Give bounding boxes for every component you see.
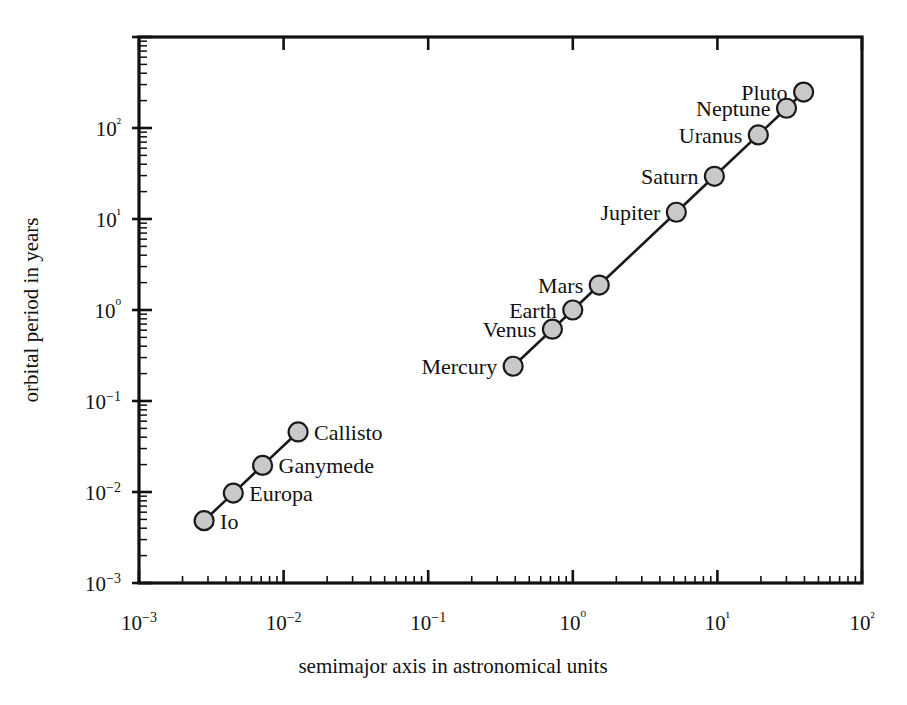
data-point-marker xyxy=(253,456,272,475)
data-point-label: Mars xyxy=(538,273,583,298)
data-point-label: Earth xyxy=(509,298,557,323)
data-point-label: Mercury xyxy=(421,354,497,379)
data-point-label: Pluto xyxy=(741,80,787,105)
kepler-log-log-plot: 10−310−210−110⁰10¹10² 10−310−210−110⁰10¹… xyxy=(0,0,907,705)
data-point-label: Saturn xyxy=(641,164,698,189)
data-point-marker xyxy=(590,276,609,295)
data-point-marker xyxy=(705,167,724,186)
data-point-label: Ganymede xyxy=(279,453,374,478)
data-point-label: Callisto xyxy=(314,420,382,445)
figure-background xyxy=(0,0,907,705)
data-point-marker xyxy=(195,511,214,530)
data-point-label: Europa xyxy=(249,481,313,506)
data-point-marker xyxy=(504,357,523,376)
data-point-label: Uranus xyxy=(679,123,743,148)
data-point-marker xyxy=(794,83,813,102)
data-point-label: Io xyxy=(220,509,238,534)
figure-container: 10−310−210−110⁰10¹10² 10−310−210−110⁰10¹… xyxy=(0,0,907,705)
data-point-marker xyxy=(224,484,243,503)
data-point-marker xyxy=(749,125,768,144)
x-axis-title: semimajor axis in astronomical units xyxy=(298,654,607,678)
data-point-marker xyxy=(667,203,686,222)
y-axis-title: orbital period in years xyxy=(19,218,43,403)
data-point-marker xyxy=(289,422,308,441)
data-point-marker xyxy=(563,301,582,320)
data-point-label: Jupiter xyxy=(600,200,661,225)
